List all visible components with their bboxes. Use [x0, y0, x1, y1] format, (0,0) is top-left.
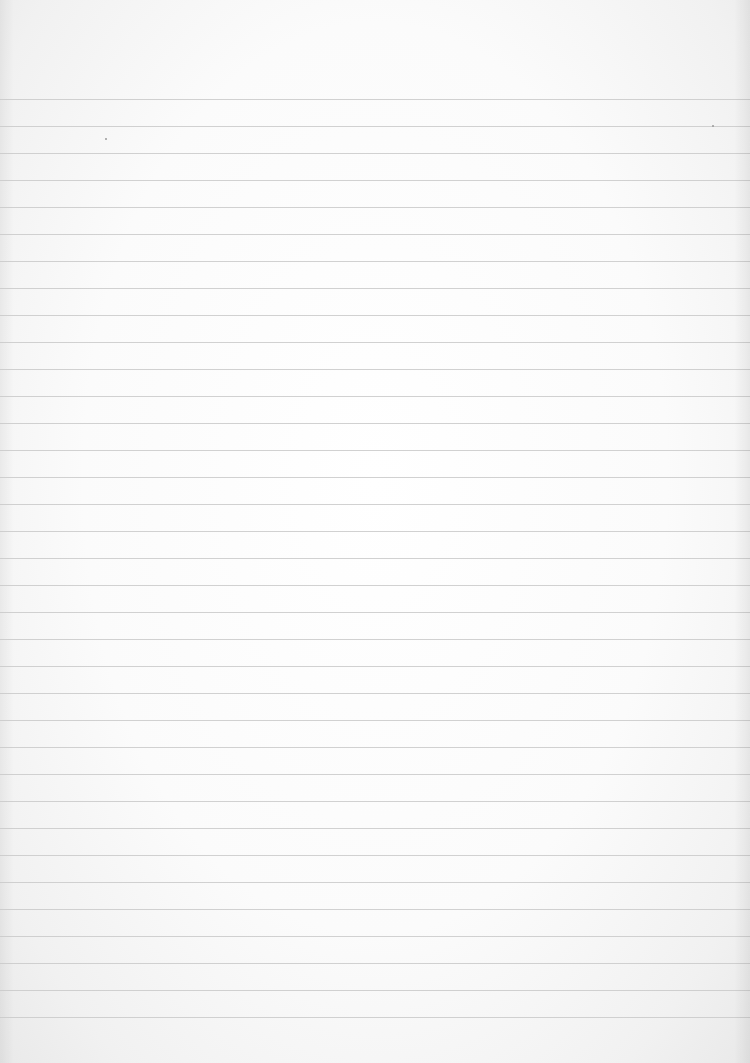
- ruled-lines: [0, 0, 750, 1063]
- ruled-line: [0, 504, 750, 505]
- ruled-line: [0, 990, 750, 991]
- paper-speck: [712, 125, 714, 127]
- ruled-line: [0, 207, 750, 208]
- ruled-line: [0, 936, 750, 937]
- ruled-line: [0, 666, 750, 667]
- ruled-paper-sheet: [0, 0, 750, 1063]
- ruled-line: [0, 342, 750, 343]
- ruled-line: [0, 558, 750, 559]
- ruled-line: [0, 963, 750, 964]
- ruled-line: [0, 747, 750, 748]
- ruled-line: [0, 315, 750, 316]
- ruled-line: [0, 126, 750, 127]
- ruled-line: [0, 828, 750, 829]
- ruled-line: [0, 261, 750, 262]
- paper-speck: [105, 138, 107, 140]
- ruled-line: [0, 99, 750, 100]
- ruled-line: [0, 801, 750, 802]
- ruled-line: [0, 720, 750, 721]
- ruled-line: [0, 909, 750, 910]
- ruled-line: [0, 639, 750, 640]
- ruled-line: [0, 369, 750, 370]
- ruled-line: [0, 693, 750, 694]
- ruled-line: [0, 774, 750, 775]
- ruled-line: [0, 882, 750, 883]
- ruled-line: [0, 153, 750, 154]
- ruled-line: [0, 531, 750, 532]
- ruled-line: [0, 1017, 750, 1018]
- ruled-line: [0, 396, 750, 397]
- ruled-line: [0, 288, 750, 289]
- ruled-line: [0, 612, 750, 613]
- ruled-line: [0, 450, 750, 451]
- ruled-line: [0, 585, 750, 586]
- ruled-line: [0, 180, 750, 181]
- ruled-line: [0, 477, 750, 478]
- ruled-line: [0, 855, 750, 856]
- ruled-line: [0, 423, 750, 424]
- ruled-line: [0, 234, 750, 235]
